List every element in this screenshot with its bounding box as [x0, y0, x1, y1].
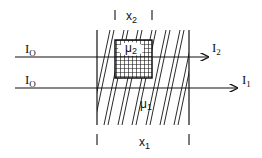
label-i2: I2 — [212, 40, 221, 57]
label-x1: x1 — [139, 135, 150, 151]
label-mu1: μ1 — [140, 97, 152, 112]
label-x2: x2 — [126, 9, 137, 25]
label-i1: I1 — [242, 72, 251, 89]
attenuation-diagram: IO IO I2 I1 μ2 μ1 x2 x1 — [0, 0, 262, 158]
label-io-upper: IO — [25, 41, 36, 58]
label-io-lower: IO — [25, 72, 36, 89]
